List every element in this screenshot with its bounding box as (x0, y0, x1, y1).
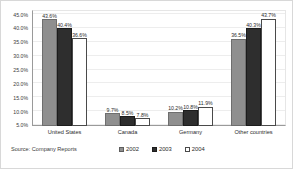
bar-value-label: 40.4% (57, 23, 72, 28)
y-axis-tick-label: 5.0% (1, 123, 28, 128)
y-axis-tick-label: 10.0% (1, 110, 28, 115)
bar[interactable]: 10.2% (168, 112, 183, 126)
y-axis-tick-label: 15.0% (1, 96, 28, 101)
bar-groups: 43.6%40.4%36.6%9.7%8.5%7.8%10.2%10.8%11.… (33, 11, 285, 126)
bar-value-label: 11.9% (198, 101, 212, 106)
bar[interactable]: 36.5% (231, 39, 246, 126)
swatch-2003-icon (152, 147, 157, 152)
bar-value-label: 43.7% (261, 13, 276, 18)
bar-slot: 36.5% (231, 11, 246, 126)
bar-slot: 9.7% (105, 11, 120, 126)
category-label: Other countries (222, 129, 285, 135)
bar[interactable]: 40.3% (246, 28, 261, 126)
bar-slot: 43.7% (261, 11, 276, 126)
bar-slot: 40.4% (57, 11, 72, 126)
bar-slot: 11.9% (198, 11, 213, 126)
bar-slot: 40.3% (246, 11, 261, 126)
category-label: Canada (96, 129, 159, 135)
swatch-2004-icon (185, 147, 190, 152)
y-axis-tick-label: 30.0% (1, 54, 28, 59)
bar-value-label: 36.5% (231, 33, 246, 38)
y-axis-tick-label: 35.0% (1, 40, 28, 45)
bar-value-label: 10.8% (183, 105, 198, 110)
bar[interactable]: 43.6% (42, 19, 57, 126)
legend-item[interactable]: 2002 (119, 146, 139, 152)
bar[interactable]: 10.8% (183, 110, 198, 126)
bar[interactable]: 40.4% (57, 28, 72, 126)
bar-value-label: 9.7% (107, 108, 119, 113)
bar-group: 9.7%8.5%7.8% (96, 11, 159, 126)
y-axis: 45.0%40.0%35.0%30.0%25.0%20.0%15.0%10.0%… (1, 10, 30, 126)
legend-item[interactable]: 2004 (185, 146, 205, 152)
bar-value-label: 8.5% (122, 111, 134, 116)
bar[interactable]: 8.5% (120, 116, 135, 126)
bar[interactable]: 11.9% (198, 107, 213, 126)
bar[interactable]: 36.6% (72, 38, 87, 126)
swatch-2002-icon (119, 147, 124, 152)
y-axis-tick-label: 20.0% (1, 82, 28, 87)
bar-slot: 7.8% (135, 11, 150, 126)
bar-value-label: 36.6% (72, 33, 87, 38)
bar-value-label: 43.6% (42, 14, 57, 19)
bar[interactable]: 9.7% (105, 113, 120, 126)
bar-slot: 10.8% (183, 11, 198, 126)
bar-value-label: 7.8% (137, 113, 149, 118)
chart-figure: 45.0%40.0%35.0%30.0%25.0%20.0%15.0%10.0%… (0, 0, 293, 169)
legend-label: 2004 (192, 146, 205, 152)
legend-label: 2002 (126, 146, 139, 152)
bar-value-label: 40.3% (246, 23, 261, 28)
legend-label: 2003 (159, 146, 172, 152)
bar-value-label: 10.2% (168, 106, 183, 111)
bar-slot: 36.6% (72, 11, 87, 126)
category-axis: United StatesCanadaGermanyOther countrie… (33, 129, 285, 135)
chart-legend: 200220032004 (119, 146, 205, 152)
y-axis-tick-label: 40.0% (1, 26, 28, 31)
top-bleed-text (1, 1, 293, 6)
y-axis-tick-label: 25.0% (1, 68, 28, 73)
bar[interactable]: 43.7% (261, 19, 276, 126)
category-label: United States (33, 129, 96, 135)
bar-slot: 8.5% (120, 11, 135, 126)
bar[interactable]: 7.8% (135, 118, 150, 126)
bar-group: 36.5%40.3%43.7% (222, 11, 285, 126)
bar-group: 10.2%10.8%11.9% (159, 11, 222, 126)
category-label: Germany (159, 129, 222, 135)
bar-slot: 43.6% (42, 11, 57, 126)
source-note: Source: Company Reports (11, 146, 119, 152)
y-axis-tick-label: 45.0% (1, 13, 28, 18)
legend-item[interactable]: 2003 (152, 146, 172, 152)
bar-slot: 10.2% (168, 11, 183, 126)
bar-group: 43.6%40.4%36.6% (33, 11, 96, 126)
chart-footer: Source: Company Reports 200220032004 (11, 146, 282, 152)
